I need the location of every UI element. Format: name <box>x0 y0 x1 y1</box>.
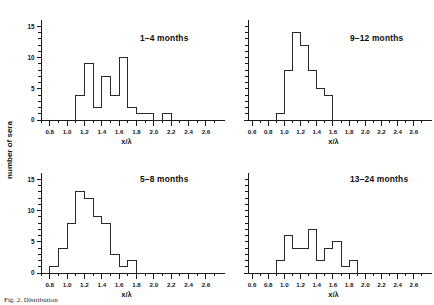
x-tick-label: 1.6 <box>329 281 338 288</box>
x-tick-label: 0.8 <box>264 128 273 135</box>
x-tick-label: 1.6 <box>329 128 338 135</box>
panel-bottom-right: 0.60.81.01.21.41.61.82.02.22.42.613–24 m… <box>244 173 432 299</box>
panel-title: 1–4 months <box>140 33 189 43</box>
x-tick-label: 2.0 <box>150 281 159 288</box>
y-tick-label: 10 <box>27 54 35 61</box>
x-tick-label: 2.2 <box>167 128 176 135</box>
x-tick-label: 0.6 <box>248 281 257 288</box>
x-tick-label: 1.2 <box>80 128 89 135</box>
x-tick-label: 2.4 <box>184 281 193 288</box>
x-tick-label: 1.6 <box>115 128 124 135</box>
x-tick-label: 2.6 <box>410 281 419 288</box>
x-tick-label: 1.8 <box>132 128 141 135</box>
y-tick-label: 5 <box>31 238 35 245</box>
x-tick-label: 2.6 <box>202 281 211 288</box>
caption-text: Fig. 2. Distribution <box>4 296 58 304</box>
x-tick-label: 1.8 <box>345 128 354 135</box>
x-tick-label: 2.2 <box>377 281 386 288</box>
panel-title: 9–12 months <box>350 33 404 43</box>
y-tick-label: 15 <box>27 23 35 30</box>
figure-root: 0510150.81.01.21.41.61.82.02.22.42.61–4 … <box>0 0 434 305</box>
panel-title: 5–8 months <box>140 174 189 184</box>
x-axis-title: x/λ <box>121 137 131 146</box>
x-tick-label: 1.6 <box>115 281 124 288</box>
x-tick-label: 2.0 <box>361 281 370 288</box>
histogram-outline <box>276 33 341 121</box>
y-tick-label: 10 <box>27 207 35 214</box>
x-tick-label: 2.0 <box>361 128 370 135</box>
panel-top-left: 0510150.81.01.21.41.61.82.02.22.42.61–4 … <box>27 20 225 146</box>
x-tick-label: 1.0 <box>280 128 289 135</box>
panel-title: 13–24 months <box>350 174 408 184</box>
x-tick-label: 1.4 <box>97 128 106 135</box>
histogram-outline <box>76 58 172 121</box>
x-tick-label: 1.2 <box>296 128 305 135</box>
figure-caption: Fig. 2. Distribution <box>4 296 58 304</box>
x-tick-label: 2.0 <box>150 128 159 135</box>
x-tick-label: 1.8 <box>132 281 141 288</box>
y-axis-title: number of sera <box>5 121 14 179</box>
x-tick-label: 2.4 <box>393 281 402 288</box>
x-tick-label: 1.4 <box>97 281 106 288</box>
x-axis-title: x/λ <box>328 137 338 146</box>
x-tick-label: 2.4 <box>184 128 193 135</box>
histogram-figure: 0510150.81.01.21.41.61.82.02.22.42.61–4 … <box>0 0 434 305</box>
x-axis-title: x/λ <box>328 290 338 299</box>
x-tick-label: 2.2 <box>167 281 176 288</box>
x-axis-title: x/λ <box>121 290 131 299</box>
x-tick-label: 0.8 <box>45 128 54 135</box>
x-tick-label: 0.8 <box>264 281 273 288</box>
y-tick-label: 5 <box>31 85 35 92</box>
x-tick-label: 1.0 <box>63 128 72 135</box>
histogram-outline <box>276 229 357 273</box>
x-tick-label: 2.6 <box>202 128 211 135</box>
x-tick-label: 1.2 <box>80 281 89 288</box>
histogram-outline <box>50 192 146 273</box>
x-tick-label: 2.4 <box>393 128 402 135</box>
x-tick-label: 1.0 <box>280 281 289 288</box>
x-tick-label: 2.2 <box>377 128 386 135</box>
x-tick-label: 2.6 <box>410 128 419 135</box>
panel-top-right: 0.60.81.01.21.41.61.82.02.22.42.69–12 mo… <box>244 20 432 146</box>
y-tick-label: 0 <box>31 116 35 123</box>
y-tick-label: 15 <box>27 176 35 183</box>
x-tick-label: 1.4 <box>312 128 321 135</box>
panel-bottom-left: 0510150.81.01.21.41.61.82.02.22.42.65–8 … <box>27 173 225 299</box>
x-tick-label: 1.8 <box>345 281 354 288</box>
x-tick-label: 1.2 <box>296 281 305 288</box>
x-tick-label: 1.0 <box>63 281 72 288</box>
y-tick-label: 0 <box>31 269 35 276</box>
x-tick-label: 1.4 <box>312 281 321 288</box>
x-tick-label: 0.6 <box>248 128 257 135</box>
x-tick-label: 0.8 <box>45 281 54 288</box>
